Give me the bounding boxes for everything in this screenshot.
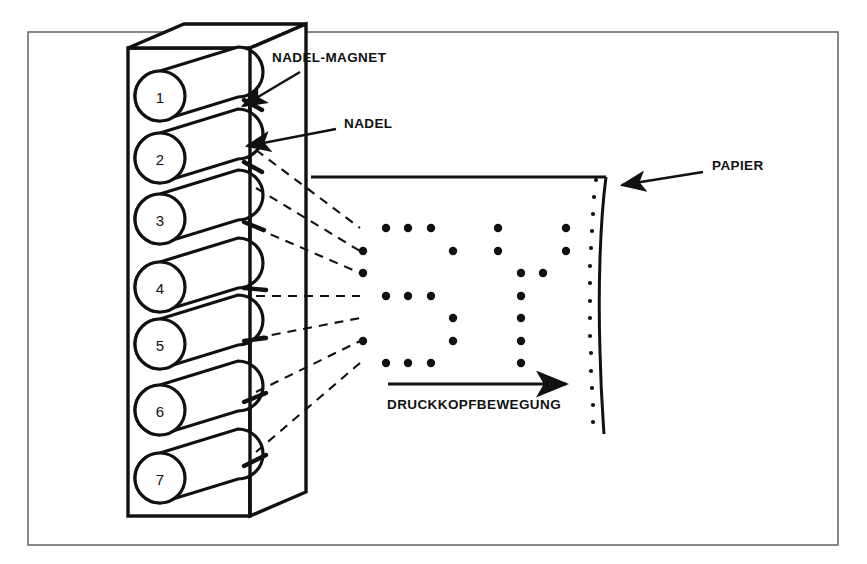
matrix-dot: [427, 224, 435, 232]
matrix-dot: [449, 247, 457, 255]
matrix-dot: [539, 269, 547, 277]
matrix-dot: [404, 292, 412, 300]
sprocket-hole: [588, 281, 592, 285]
matrix-dot: [427, 359, 435, 367]
needle-label: NADEL: [344, 116, 393, 131]
needle-number-5: 5: [156, 337, 164, 354]
printhead-diagram: 1 2 3 4: [0, 0, 867, 564]
sprocket-hole: [588, 299, 592, 303]
paper-label: PAPIER: [712, 158, 764, 173]
matrix-dot: [449, 314, 457, 322]
sprocket-hole: [592, 195, 596, 199]
matrix-dot: [517, 292, 525, 300]
matrix-dot: [359, 337, 367, 345]
matrix-dot: [382, 359, 390, 367]
sprocket-hole: [589, 369, 593, 373]
matrix-dot: [562, 247, 570, 255]
sprocket-hole: [588, 334, 592, 338]
head-movement-label: DRUCKKOPFBEWEGUNG: [387, 397, 561, 412]
needle-number-1: 1: [156, 89, 164, 106]
matrix-dot: [359, 269, 367, 277]
needle-tip-5: [244, 338, 266, 341]
sprocket-hole: [594, 178, 598, 182]
needle-magnet-label: NADEL-MAGNET: [272, 50, 387, 65]
sprocket-hole: [588, 316, 592, 320]
matrix-dot: [517, 359, 525, 367]
matrix-dot: [562, 224, 570, 232]
sprocket-hole: [591, 403, 595, 407]
sprocket-hole: [590, 229, 594, 233]
matrix-dot: [449, 337, 457, 345]
matrix-dot: [404, 224, 412, 232]
figure-canvas: 1 2 3 4: [0, 0, 867, 564]
needle-number-2: 2: [156, 151, 164, 168]
needle-number-3: 3: [156, 212, 164, 229]
matrix-dot: [382, 224, 390, 232]
matrix-dot: [494, 224, 502, 232]
matrix-dot: [517, 269, 525, 277]
matrix-dot: [359, 247, 367, 255]
matrix-dot: [517, 314, 525, 322]
needle-number-4: 4: [156, 280, 164, 297]
needle-number-7: 7: [156, 471, 164, 488]
matrix-dot: [517, 337, 525, 345]
needle-tip-4: [244, 288, 266, 290]
matrix-dot: [427, 292, 435, 300]
sprocket-hole: [589, 351, 593, 355]
sprocket-hole: [591, 212, 595, 216]
sprocket-hole: [591, 420, 595, 424]
matrix-dot: [404, 359, 412, 367]
sprocket-hole: [588, 264, 592, 268]
needle-number-6: 6: [156, 403, 164, 420]
sprocket-hole: [589, 246, 593, 250]
matrix-dot: [382, 292, 390, 300]
sprocket-hole: [590, 386, 594, 390]
matrix-dot: [494, 247, 502, 255]
